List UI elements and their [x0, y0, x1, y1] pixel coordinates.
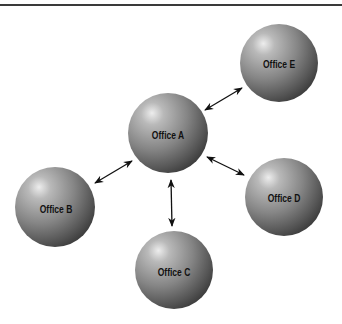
- arrow-a-d: [207, 157, 244, 175]
- label-office-b: Office B: [40, 204, 73, 215]
- label-office-e: Office E: [263, 59, 295, 70]
- label-office-c: Office C: [158, 267, 191, 278]
- arrow-a-b: [95, 161, 132, 183]
- arrow-a-c: [171, 180, 172, 226]
- label-office-a: Office A: [152, 130, 184, 141]
- arrow-a-e: [205, 88, 242, 110]
- label-office-d: Office D: [268, 193, 301, 204]
